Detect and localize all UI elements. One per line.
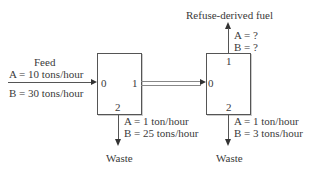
rdf-a-flow: A = ? [234, 29, 258, 41]
unit2-port-1: 1 [226, 55, 232, 67]
unit2-waste-arrow-icon [225, 139, 231, 146]
unit1-waste-label: Waste [106, 152, 133, 164]
unit1-waste-b-flow: B = 25 tons/hour [124, 127, 198, 139]
unit1-port-2: 2 [115, 101, 121, 113]
feed-b-flow: B = 30 tons/hour [9, 87, 83, 99]
unit2-waste-line [228, 114, 229, 140]
feed-a-flow: A = 10 tons/hour [9, 68, 83, 80]
unit2-waste-a-flow: A = 1 ton/hour [234, 115, 299, 127]
unit1-port-1: 1 [132, 77, 138, 89]
feed-stream-line [8, 82, 92, 83]
unit2-waste-b-flow: B = 3 tons/hour [234, 127, 303, 139]
rdf-b-flow: B = ? [234, 41, 258, 53]
unit1-port-0: 0 [101, 77, 107, 89]
unit1-waste-arrow-icon [115, 139, 121, 146]
intermediate-stream-line [141, 81, 201, 86]
unit2-port-0: 0 [208, 77, 214, 89]
unit2-waste-label: Waste [216, 152, 243, 164]
unit2-port-2: 2 [226, 101, 232, 113]
unit1-waste-line [118, 114, 119, 140]
rdf-label: Refuse-derived fuel [186, 9, 273, 21]
unit1-waste-a-flow: A = 1 ton/hour [124, 115, 189, 127]
rdf-stream-line [228, 28, 229, 53]
feed-title: Feed [34, 56, 55, 68]
